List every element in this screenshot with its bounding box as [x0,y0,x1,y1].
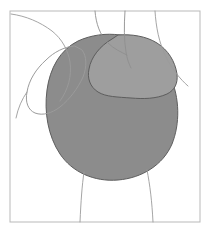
contour-torso-left [80,172,84,222]
figure-canvas: Anatomical contour diagram [0,0,211,232]
contour-armpit-left [16,92,27,118]
anatomical-diagram [0,0,211,232]
contour-torso-right [147,170,153,222]
